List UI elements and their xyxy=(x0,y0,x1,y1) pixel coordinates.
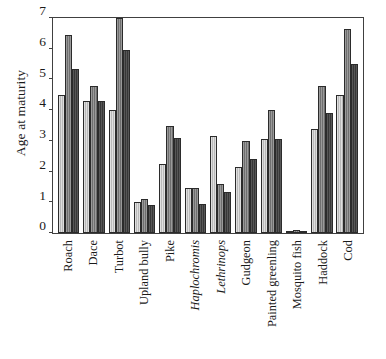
bar xyxy=(318,86,325,233)
x-tick-label: Dace xyxy=(87,240,99,265)
y-tick-label: 5 xyxy=(39,66,46,80)
bar xyxy=(261,139,268,233)
x-label-slot: Dace xyxy=(81,236,105,354)
y-tick-label: 0 xyxy=(39,220,46,234)
bar-group xyxy=(109,18,131,233)
x-label-slot: Painted greenling xyxy=(260,236,284,354)
x-tick-label: Roach xyxy=(62,240,74,272)
bar xyxy=(58,95,65,233)
bar-group xyxy=(210,18,232,233)
bar xyxy=(286,231,293,233)
bar xyxy=(351,64,358,233)
x-tick-label: Turbot xyxy=(113,240,125,273)
x-label-slot: Upland bully xyxy=(132,236,156,354)
y-tick-label: 4 xyxy=(39,97,46,111)
y-axis-title-container: Age at maturity xyxy=(0,0,30,250)
bar xyxy=(300,231,307,233)
bar xyxy=(166,126,173,234)
bar xyxy=(83,101,90,233)
x-tick-label: Haddock xyxy=(317,240,329,285)
x-label-slot: Pike xyxy=(158,236,182,354)
bar xyxy=(293,230,300,233)
bar xyxy=(250,159,257,233)
x-axis-labels: RoachDaceTurbotUpland bullyPikeHaplochro… xyxy=(52,236,364,354)
bar xyxy=(311,129,318,233)
bar xyxy=(98,101,105,233)
x-tick-label: Mosquito fish xyxy=(291,240,303,309)
bar xyxy=(141,199,148,233)
bar xyxy=(217,184,224,233)
bar xyxy=(199,204,206,233)
bar xyxy=(275,139,282,233)
bar xyxy=(326,113,333,233)
bar-group xyxy=(134,18,156,233)
x-label-slot: Cod xyxy=(336,236,360,354)
x-tick-label: Lethrinops xyxy=(215,240,227,294)
bar-group xyxy=(83,18,105,233)
bar-group xyxy=(336,18,358,233)
y-axis-title: Age at maturity xyxy=(13,38,29,188)
x-label-slot: Gudgeon xyxy=(234,236,258,354)
bar xyxy=(192,188,199,233)
x-tick-label: Upland bully xyxy=(138,240,150,305)
bar xyxy=(116,18,123,233)
bar xyxy=(134,202,141,233)
x-label-slot: Mosquito fish xyxy=(285,236,309,354)
bar-group xyxy=(311,18,333,233)
bar xyxy=(65,35,72,233)
x-label-slot: Haddock xyxy=(311,236,335,354)
bar xyxy=(344,29,351,233)
plot-area: 01234567 xyxy=(52,17,364,234)
bar xyxy=(72,69,79,233)
bar xyxy=(268,110,275,233)
bar-group xyxy=(159,18,181,233)
y-tick-label: 2 xyxy=(39,158,46,172)
y-tick-label: 3 xyxy=(39,127,46,141)
bar-group xyxy=(58,18,80,233)
bar xyxy=(242,141,249,233)
bar xyxy=(148,205,155,233)
bar xyxy=(185,188,192,233)
x-tick-label: Painted greenling xyxy=(266,240,278,327)
bar-chart-figure: Age at maturity 01234567 RoachDaceTurbot… xyxy=(0,0,386,359)
y-tick-label: 6 xyxy=(39,35,46,49)
x-tick-label: Pike xyxy=(164,240,176,262)
x-label-slot: Haplochromis xyxy=(183,236,207,354)
bar-group xyxy=(286,18,308,233)
x-tick-label: Gudgeon xyxy=(240,240,252,285)
bar xyxy=(210,136,217,233)
y-tick-label: 7 xyxy=(39,5,46,19)
x-label-slot: Turbot xyxy=(107,236,131,354)
bar xyxy=(224,192,231,233)
bar-group xyxy=(185,18,207,233)
x-tick-label: Haplochromis xyxy=(189,240,201,310)
bar-group xyxy=(235,18,257,233)
y-tick-label: 1 xyxy=(39,189,46,203)
bar-group xyxy=(261,18,283,233)
bar xyxy=(174,138,181,233)
bar xyxy=(123,50,130,233)
bar xyxy=(336,95,343,233)
bar xyxy=(235,167,242,233)
x-label-slot: Roach xyxy=(56,236,80,354)
bar xyxy=(90,86,97,233)
bar-groups xyxy=(53,18,363,233)
x-tick-label: Cod xyxy=(342,240,354,261)
bar xyxy=(109,110,116,233)
x-label-slot: Lethrinops xyxy=(209,236,233,354)
bar xyxy=(159,164,166,233)
